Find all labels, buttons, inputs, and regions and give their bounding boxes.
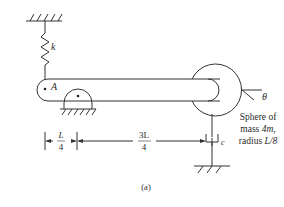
dimension-lines [45, 132, 204, 150]
dimension-left: L 4 [57, 130, 65, 152]
mechanical-system-diagram: k A θ c L 4 3L 4 Sphere of mass 4m, radi… [0, 0, 284, 207]
pivot-support [60, 89, 96, 115]
bottom-ground-support [194, 166, 230, 173]
svg-text:Sphere of: Sphere of [240, 112, 278, 122]
dimension-right: 3L 4 [138, 130, 151, 152]
point-a-dot [44, 88, 47, 91]
svg-text:4: 4 [142, 142, 147, 152]
spring-label: k [51, 41, 56, 52]
point-a-label: A [50, 81, 58, 92]
svg-text:4: 4 [59, 142, 64, 152]
sphere [192, 64, 242, 116]
svg-text:3L: 3L [139, 130, 149, 140]
angle-indicator [242, 90, 262, 100]
figure-caption: (a) [141, 182, 151, 192]
pivot-dot [77, 95, 80, 98]
top-ground-support [26, 14, 62, 21]
spring [41, 21, 49, 79]
angle-label: θ [262, 91, 267, 102]
damper [206, 134, 218, 166]
svg-text:radius L/8: radius L/8 [239, 136, 278, 146]
damper-label: c [221, 138, 225, 147]
svg-text:L: L [57, 130, 63, 140]
sphere-description: Sphere of mass 4m, radius L/8 [239, 112, 278, 146]
svg-text:mass 4m,: mass 4m, [240, 124, 275, 134]
